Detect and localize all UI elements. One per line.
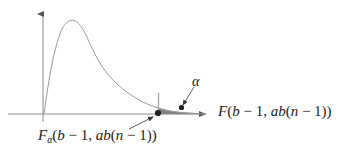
tail-area-dot — [179, 105, 184, 110]
x-axis-label-arg1-minus: − — [240, 103, 256, 119]
alpha-leader-line — [183, 87, 194, 105]
critical-value-comma: , — [88, 127, 96, 143]
tail-area-alpha-label: α — [192, 75, 199, 89]
x-axis-label-arg2-num: 1 — [314, 103, 322, 119]
x-axis-label-arg2-prefix: ab — [271, 103, 286, 119]
critical-value-arg2-prefix: ab — [96, 127, 111, 143]
critical-value-arg1-minus: − — [65, 127, 81, 143]
x-axis-label-comma: , — [263, 103, 271, 119]
density-curve — [44, 20, 206, 114]
f-distribution-figure: F(b − 1, ab(n − 1)) Fα(b − 1, ab(n − 1))… — [0, 0, 345, 157]
x-axis-label-symbol: F — [218, 103, 227, 119]
critical-value-symbol: F — [38, 127, 47, 143]
critical-value-arg1-var: b — [57, 127, 65, 143]
critical-value-close-parens: )) — [147, 127, 157, 143]
critical-value-arg2-num: 1 — [139, 127, 147, 143]
x-axis-label-close-parens: )) — [322, 103, 332, 119]
x-axis-label-arg1-var: b — [232, 103, 240, 119]
critical-value-label: Fα(b − 1, ab(n − 1)) — [38, 128, 157, 145]
critical-value-dot — [155, 110, 161, 116]
x-axis-label: F(b − 1, ab(n − 1)) — [218, 104, 332, 119]
x-axis-label-arg2-minus: − — [298, 103, 314, 119]
critical-value-arg2-minus: − — [123, 127, 139, 143]
